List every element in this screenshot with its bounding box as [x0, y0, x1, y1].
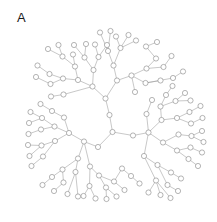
graph-node: [170, 83, 175, 88]
graph-node: [170, 75, 175, 80]
graph-node: [29, 163, 34, 168]
graph-node: [129, 73, 134, 78]
graph-node: [90, 84, 95, 89]
graph-node: [188, 121, 193, 126]
graph-node: [39, 143, 44, 148]
graph-node: [128, 173, 133, 178]
graph-node: [35, 63, 40, 68]
graph-node: [60, 76, 65, 81]
graph-node: [91, 67, 96, 72]
graph-node: [52, 124, 57, 129]
graph-node: [97, 30, 102, 35]
graph-node: [176, 132, 181, 137]
graph-node: [188, 98, 193, 103]
graph-node: [66, 130, 71, 135]
graph-node: [70, 52, 75, 57]
graph-node: [87, 164, 92, 169]
graph-edge: [108, 31, 111, 51]
graph-node: [161, 64, 166, 69]
graph-node: [149, 97, 154, 102]
graph-node: [103, 96, 108, 101]
graph-node: [28, 109, 33, 114]
graph-node: [137, 181, 142, 186]
graph-node: [87, 183, 92, 188]
graph-node: [103, 185, 108, 190]
graph-node: [52, 138, 57, 143]
graph-node: [165, 182, 170, 187]
graph-node: [119, 166, 124, 171]
graph-node: [122, 187, 127, 192]
graph-node: [73, 169, 78, 174]
graph-node: [72, 64, 77, 69]
graph-edge: [113, 132, 134, 136]
graph-node: [168, 195, 173, 200]
graph-node: [38, 127, 43, 132]
graph-node: [45, 46, 50, 51]
graph-node: [40, 154, 45, 159]
graph-node: [163, 92, 168, 97]
graph-node: [114, 194, 119, 199]
graph-node: [60, 167, 65, 172]
graph-node: [48, 81, 53, 86]
graph-node: [175, 188, 180, 193]
graph-node: [65, 191, 70, 196]
graph-node: [71, 42, 76, 47]
graph-node: [27, 153, 32, 158]
graph-node: [199, 128, 204, 133]
graph-node: [174, 148, 179, 153]
graph-node: [118, 45, 123, 50]
graph-node: [160, 140, 165, 145]
graph-node: [143, 80, 148, 85]
graph-node: [141, 153, 146, 158]
graph-node: [92, 42, 97, 47]
graph-node: [25, 142, 30, 147]
graph-node: [155, 162, 160, 167]
graph-node: [108, 28, 113, 33]
graph-node: [26, 120, 31, 125]
node-layer: [25, 28, 206, 201]
graph-node: [180, 69, 185, 74]
graph-node: [39, 115, 44, 120]
graph-node: [114, 78, 119, 83]
graph-node: [159, 117, 164, 122]
graph-node: [81, 139, 86, 144]
graph-edge: [90, 167, 91, 187]
graph-node: [198, 103, 203, 108]
graph-node: [60, 54, 65, 59]
graph-node: [111, 63, 116, 68]
graph-node: [95, 144, 100, 149]
graph-node: [40, 182, 45, 187]
graph-node: [75, 194, 80, 199]
graph-node: [61, 115, 66, 120]
graph-node: [47, 71, 52, 76]
graph-node: [105, 48, 110, 53]
graph-node: [178, 176, 183, 181]
graph-node: [26, 131, 31, 136]
graph-node: [195, 163, 200, 168]
graph-node: [93, 196, 98, 201]
graph-node: [107, 112, 112, 117]
graph-edge: [98, 132, 113, 147]
graph-node: [153, 178, 158, 183]
graph-node: [146, 130, 151, 135]
graph-node: [182, 90, 187, 95]
graph-node: [188, 145, 193, 150]
graph-edge: [64, 87, 93, 95]
graph-node: [48, 94, 53, 99]
graph-edge: [84, 142, 90, 167]
graph-node: [104, 196, 109, 201]
graph-node: [104, 42, 109, 47]
graph-edge: [68, 172, 76, 194]
graph-node: [153, 56, 158, 61]
graph-node: [38, 101, 43, 106]
graph-node: [130, 133, 135, 138]
graph-node: [111, 179, 116, 184]
graph-node: [168, 170, 173, 175]
graph-node: [201, 139, 206, 144]
edge-layer: [28, 31, 204, 199]
graph-node: [82, 55, 87, 60]
graph-node: [133, 38, 138, 43]
graph-edge: [106, 81, 118, 99]
graph-node: [132, 89, 137, 94]
radial-tree-graph: [0, 0, 217, 222]
